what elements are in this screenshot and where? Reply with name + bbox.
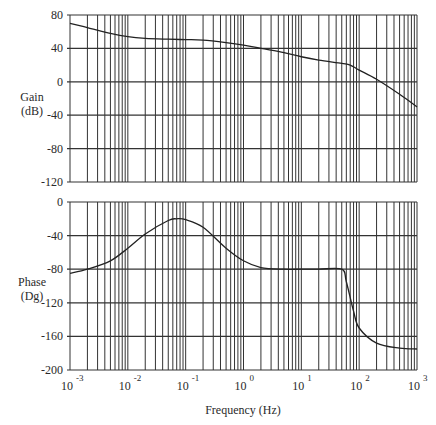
- x-tick-exponent: 2: [365, 373, 370, 383]
- y-tick-label: 80: [51, 8, 63, 22]
- x-tick-label: 10: [408, 379, 420, 393]
- x-axis-label: Frequency (Hz): [205, 403, 281, 417]
- x-tick-exponent: -2: [134, 373, 142, 383]
- x-tick-label: 10: [292, 379, 304, 393]
- x-tick-exponent: 3: [423, 373, 428, 383]
- gain-panel: 80400-40-80-120: [41, 8, 417, 189]
- y-tick-label: -120: [41, 296, 63, 310]
- y-tick-label: -40: [47, 108, 63, 122]
- phase-label-line2: (Dg): [21, 289, 44, 303]
- gain-label-line1: Gain: [20, 90, 43, 104]
- y-tick-label: -80: [47, 142, 63, 156]
- y-tick-label: -160: [41, 329, 63, 343]
- gain-label-line2: (dB): [21, 104, 43, 118]
- phase-label-line1: Phase: [18, 275, 46, 289]
- x-tick-exponent: 1: [307, 373, 312, 383]
- x-tick-exponent: 0: [250, 373, 255, 383]
- x-tick-label: 10: [119, 379, 131, 393]
- y-tick-label: -200: [41, 363, 63, 377]
- phase-panel: 0-40-80-120-160-200: [41, 195, 417, 377]
- x-tick-label: 10: [177, 379, 189, 393]
- y-tick-label: 0: [57, 75, 63, 89]
- y-tick-label: 40: [51, 41, 63, 55]
- x-tick-exponent: -1: [192, 373, 200, 383]
- x-tick-label: 10: [350, 379, 362, 393]
- x-tick-exponent: -3: [76, 373, 84, 383]
- y-tick-label: -80: [47, 262, 63, 276]
- y-tick-label: 0: [57, 195, 63, 209]
- x-tick-label: 10: [61, 379, 73, 393]
- bode-plot: 80400-40-80-120 0-40-80-120-160-200 10-3…: [0, 0, 436, 425]
- x-tick-label: 10: [235, 379, 247, 393]
- y-tick-label: -120: [41, 175, 63, 189]
- y-tick-label: -40: [47, 229, 63, 243]
- x-tick-labels: 10-310-210-1100101102103: [61, 373, 428, 393]
